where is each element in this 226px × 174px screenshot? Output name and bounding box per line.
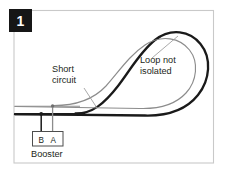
short-circuit-label-line2: circuit xyxy=(52,75,76,85)
figure-container: 1 Short circuit Loop not isolated B A Bo… xyxy=(0,0,226,174)
terminal-label-b: B xyxy=(38,136,44,145)
booster-label: Booster xyxy=(31,149,63,159)
booster-box xyxy=(33,132,64,147)
wiring-diagram: 1 Short circuit Loop not isolated B A Bo… xyxy=(0,0,226,174)
loop-not-isolated-label-line2: isolated xyxy=(140,66,172,76)
short-circuit-label-line1: Short xyxy=(52,64,74,74)
junction-dot-b xyxy=(39,112,43,116)
loop-not-isolated-label-line1: Loop not xyxy=(140,55,176,65)
step-badge-number: 1 xyxy=(17,13,25,29)
junction-dot-a xyxy=(51,104,54,107)
terminal-label-a: A xyxy=(50,136,56,145)
